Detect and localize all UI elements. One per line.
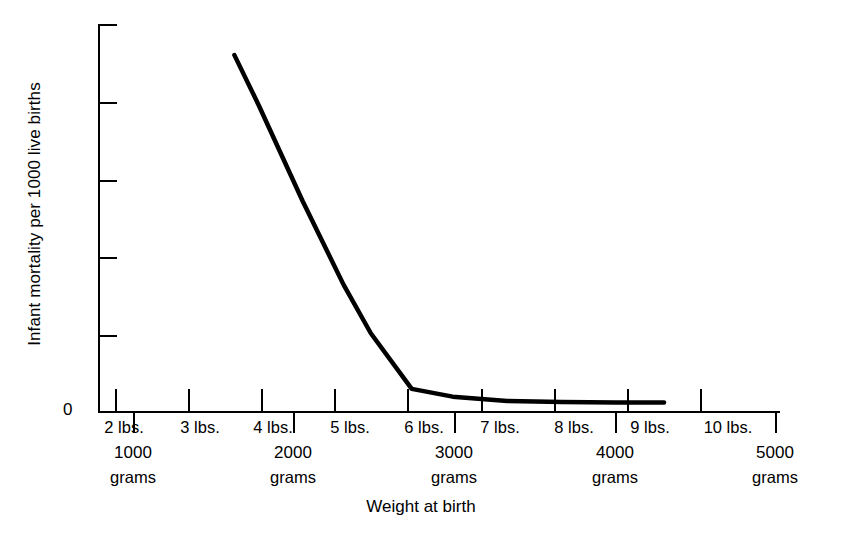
x-unit-4000-grams: grams	[592, 468, 638, 486]
x-tick-down-3000g	[454, 413, 456, 433]
y-tick-label-0: 0	[63, 401, 72, 418]
x-label-2lbs: 2 lbs.	[104, 419, 143, 436]
x-label-7lbs: 7 lbs.	[480, 419, 519, 436]
x-label-3000-grams: 3000	[435, 444, 473, 462]
mortality-curve	[98, 24, 780, 413]
x-unit-3000-grams: grams	[431, 468, 477, 486]
x-label-2000-grams: 2000	[274, 444, 312, 462]
x-label-4000-grams: 4000	[596, 444, 634, 462]
x-label-10lbs: 10 lbs.	[704, 419, 753, 436]
x-label-8lbs: 8 lbs.	[554, 419, 593, 436]
x-label-5000-grams: 5000	[756, 444, 794, 462]
x-tick-down-4000g	[615, 413, 617, 433]
x-tick-down-5000g	[775, 413, 777, 433]
x-unit-1000-grams: grams	[110, 468, 156, 486]
x-label-3lbs: 3 lbs.	[180, 419, 219, 436]
plot-area: 1000 800 600 400 200	[98, 24, 780, 413]
x-label-9lbs: 9 lbs.	[630, 419, 669, 436]
x-label-4lbs: 4 lbs.	[253, 419, 292, 436]
x-unit-2000-grams: grams	[270, 468, 316, 486]
x-label-6lbs: 6 lbs.	[404, 419, 443, 436]
x-unit-5000-grams: grams	[752, 468, 798, 486]
x-label-1000-grams: 1000	[114, 444, 152, 462]
x-axis-title: Weight at birth	[0, 497, 842, 517]
x-label-5lbs: 5 lbs.	[330, 419, 369, 436]
chart-figure: Infant mortality per 1000 live births 10…	[0, 0, 842, 537]
x-tick-down-2000g	[293, 413, 295, 433]
y-axis-title: Infant mortality per 1000 live births	[23, 14, 47, 414]
